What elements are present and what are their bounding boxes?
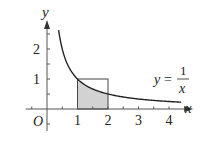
svg-text:y: y	[152, 72, 161, 87]
y-tick-label: 2	[33, 42, 40, 57]
tick-labels: 123412	[33, 42, 173, 128]
origin-label: O	[33, 114, 43, 129]
x-tick-label: 4	[166, 113, 173, 128]
svg-text:=: =	[164, 72, 172, 87]
x-tick-label: 1	[74, 113, 81, 128]
y-tick-label: 1	[33, 72, 40, 87]
figure: y x O y = 1 x 123412	[0, 0, 203, 146]
curve-y-equals-1-over-x	[59, 30, 182, 102]
y-axis-label: y	[40, 4, 49, 20]
svg-text:1: 1	[180, 63, 187, 78]
function-label: y = 1 x	[152, 63, 189, 96]
x-axis-label: x	[184, 100, 192, 116]
x-tick-label: 3	[135, 113, 142, 128]
axis-labels: y x O y = 1 x	[33, 4, 192, 129]
x-tick-label: 2	[105, 113, 112, 128]
svg-text:x: x	[178, 81, 186, 96]
